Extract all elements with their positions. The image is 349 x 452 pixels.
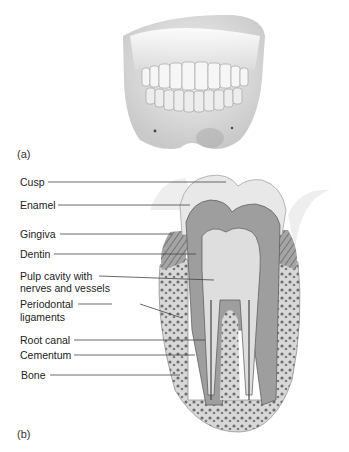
label-root-canal: Root canal [20,334,70,346]
label-gingiva: Gingiva [20,228,56,240]
molar-cross-section [150,175,330,432]
label-dentin: Dentin [20,248,50,260]
mandible-illustration [123,15,265,149]
label-periodontal-line2: ligaments [20,311,65,323]
panel-label-a: (a) [17,148,30,160]
panel-label-b: (b) [17,428,30,440]
label-pulp-cavity: Pulp cavity with [20,270,92,282]
label-bone: Bone [21,369,46,381]
label-periodontal: Periodontal [20,298,73,310]
label-enamel: Enamel [20,199,56,211]
label-cementum: Cementum [20,349,71,361]
anatomy-illustration [0,0,349,452]
label-pulp-cavity-line2: nerves and vessels [20,282,110,294]
label-cusp: Cusp [20,176,45,188]
